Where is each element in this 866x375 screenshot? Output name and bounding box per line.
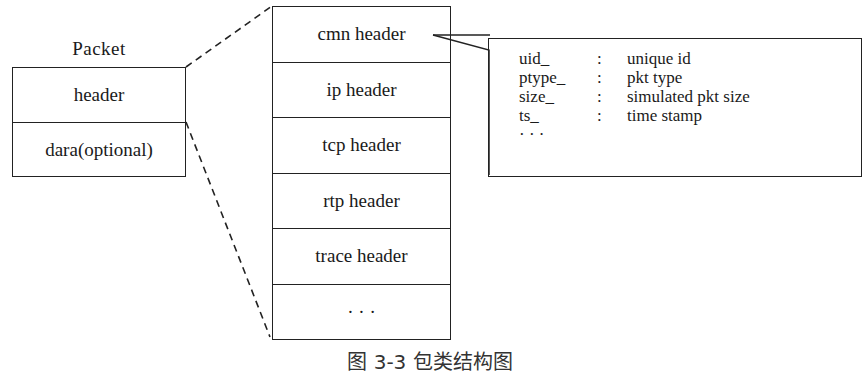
field-row: · · · [519, 125, 750, 144]
field-name: ptype_ [519, 68, 597, 87]
zoom-line-top [186, 6, 272, 67]
field-table: uid_ : unique id ptype_ : pkt type size_… [519, 49, 750, 144]
field-separator: : [597, 106, 627, 125]
field-name-ellipsis: · · · [519, 125, 597, 144]
field-row: ts_ : time stamp [519, 106, 750, 125]
header-stack: cmn header ip header tcp header rtp head… [272, 6, 451, 340]
field-description [627, 125, 750, 144]
stack-row-ip-header: ip header [273, 62, 450, 118]
field-name: uid_ [519, 49, 597, 68]
figure-caption: 图 3-3 包类结构图 [300, 346, 560, 375]
stack-row-trace-header: trace header [273, 228, 450, 284]
stack-row-cmn-header: cmn header [273, 7, 450, 62]
field-description: unique id [627, 49, 750, 68]
stack-row-rtp-header: rtp header [273, 173, 450, 229]
field-row: ptype_ : pkt type [519, 68, 750, 87]
zoom-line-bottom [186, 122, 270, 337]
packet-header-row: header [13, 68, 185, 122]
cmn-header-fields-box: uid_ : unique id ptype_ : pkt type size_… [488, 38, 862, 177]
field-description: pkt type [627, 68, 750, 87]
field-separator [597, 125, 627, 144]
field-separator: : [597, 87, 627, 106]
stack-row-ellipsis: · · · [273, 284, 450, 340]
field-row: size_ : simulated pkt size [519, 87, 750, 106]
field-separator: : [597, 68, 627, 87]
field-separator: : [597, 49, 627, 68]
packet-title: Packet [12, 38, 186, 60]
field-name: ts_ [519, 106, 597, 125]
packet-box: header dara(optional) [12, 67, 186, 177]
packet-data-row: dara(optional) [13, 122, 185, 177]
field-name: size_ [519, 87, 597, 106]
field-row: uid_ : unique id [519, 49, 750, 68]
field-description: simulated pkt size [627, 87, 750, 106]
stack-row-tcp-header: tcp header [273, 117, 450, 173]
field-description: time stamp [627, 106, 750, 125]
